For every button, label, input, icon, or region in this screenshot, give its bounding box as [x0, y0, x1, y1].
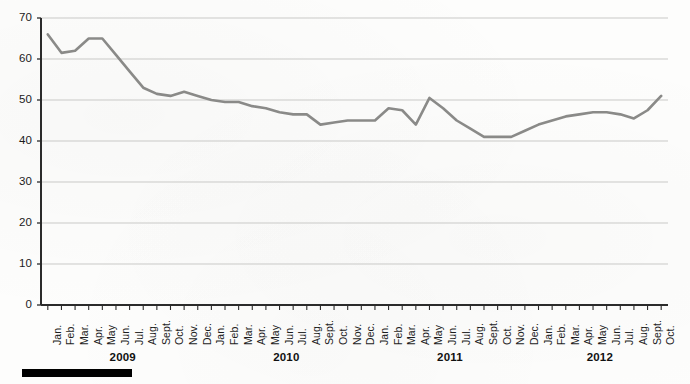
y-tick-label-0: 0: [2, 299, 32, 311]
x-tick-label-12: Jan.: [215, 325, 226, 345]
x-tick-label-18: Jul.: [297, 328, 308, 345]
x-tick-label-33: Oct.: [502, 325, 513, 345]
x-tick-label-35: Dec.: [529, 323, 540, 345]
x-tick-label-0: Jan.: [52, 325, 63, 345]
x-tick-label-11: Dec.: [202, 323, 213, 345]
x-tick-label-17: Jun.: [284, 325, 295, 345]
y-tick-label-50: 50: [2, 94, 32, 106]
year-label-2009: 2009: [88, 352, 158, 364]
x-tick-label-7: Aug.: [147, 323, 158, 345]
x-tick-label-16: May: [270, 325, 281, 345]
x-tick-label-3: Apr.: [93, 326, 104, 345]
year-label-2012: 2012: [565, 352, 635, 364]
x-tick-label-38: Mar.: [570, 324, 581, 345]
x-tick-label-8: Sept.: [161, 320, 172, 345]
x-tick-label-29: Jun.: [447, 325, 458, 345]
x-tick-label-39: Apr.: [583, 326, 594, 345]
x-tick-label-21: Oct.: [338, 325, 349, 345]
x-tick-label-37: Feb.: [556, 324, 567, 345]
x-tick-label-5: Jun.: [120, 325, 131, 345]
axes: [41, 18, 668, 305]
x-tick-label-36: Jan.: [543, 325, 554, 345]
x-tick-label-41: Jun.: [611, 325, 622, 345]
x-tick-label-4: May: [106, 325, 117, 345]
year-label-2011: 2011: [415, 352, 485, 364]
line-chart: 010203040506070 Jan.Feb.Mar.Apr.MayJun.J…: [0, 0, 690, 384]
x-tick-label-20: Sept.: [324, 320, 335, 345]
x-tick-label-19: Aug.: [311, 323, 322, 345]
x-tick-label-6: Jul.: [134, 328, 145, 345]
y-tick-label-20: 20: [2, 217, 32, 229]
y-tick-label-10: 10: [2, 258, 32, 270]
y-tick-label-70: 70: [2, 12, 32, 24]
x-tick-label-24: Jan.: [379, 325, 390, 345]
gridlines: [41, 18, 668, 305]
x-tick-label-1: Feb.: [65, 324, 76, 345]
x-tick-label-43: Aug.: [638, 323, 649, 345]
x-tick-label-22: Nov.: [352, 324, 363, 345]
x-tick-label-45: Oct.: [665, 325, 676, 345]
x-tick-label-23: Dec.: [365, 323, 376, 345]
x-tick-label-44: Sept.: [652, 320, 663, 345]
x-tick-label-27: Apr.: [420, 326, 431, 345]
x-tick-label-30: Jul.: [461, 328, 472, 345]
y-tick-label-30: 30: [2, 176, 32, 188]
x-tick-label-2: Mar.: [79, 324, 90, 345]
y-tick-label-40: 40: [2, 135, 32, 147]
x-tick-label-42: Jul.: [624, 328, 635, 345]
x-tick-label-10: Nov.: [188, 324, 199, 345]
year-label-2010: 2010: [251, 352, 321, 364]
x-tick-label-25: Feb.: [393, 324, 404, 345]
x-tick-label-13: Feb.: [229, 324, 240, 345]
x-tick-label-32: Sept.: [488, 320, 499, 345]
x-tick-label-9: Oct.: [174, 325, 185, 345]
y-tick-label-60: 60: [2, 53, 32, 65]
x-tick-label-26: Mar.: [406, 324, 417, 345]
x-tick-label-40: May: [597, 325, 608, 345]
x-tick-label-34: Nov.: [515, 324, 526, 345]
x-tick-label-28: May: [433, 325, 444, 345]
footer-rule: [22, 369, 132, 377]
x-tick-label-31: Aug.: [474, 323, 485, 345]
x-tick-label-14: Mar.: [243, 324, 254, 345]
x-tick-label-15: Apr.: [256, 326, 267, 345]
data-series-line: [48, 34, 661, 136]
